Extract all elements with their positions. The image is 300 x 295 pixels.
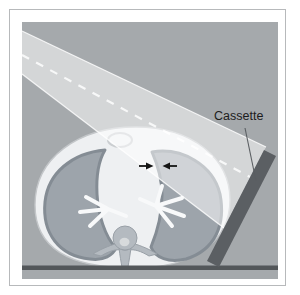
cassette-label: Cassette [214, 109, 263, 123]
table-surface [22, 266, 278, 271]
radiography-positioning-diagram: Cassette [0, 0, 300, 295]
radiography-positioning-figure: Cassette [0, 0, 300, 295]
vertebra-canal [120, 238, 130, 246]
